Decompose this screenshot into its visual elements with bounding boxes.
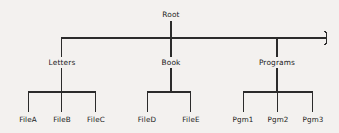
node-fileb: FileB [52, 115, 73, 124]
node-filea: FileA [18, 115, 39, 124]
directory-tree-diagram: Root Letters Book Programs FileA FileB F… [0, 0, 339, 133]
node-root: Root [161, 10, 181, 19]
continuation-break-icon [325, 32, 327, 45]
node-filec: FileC [86, 115, 107, 124]
node-letters: Letters [47, 58, 77, 67]
node-book: Book [160, 58, 182, 67]
node-pgm3: Pgm3 [301, 115, 325, 124]
node-filed: FileD [136, 115, 157, 124]
node-pgm2: Pgm2 [266, 115, 290, 124]
node-programs: Programs [257, 58, 296, 67]
node-pgm1: Pgm1 [231, 115, 255, 124]
node-filee: FileE [181, 115, 201, 124]
